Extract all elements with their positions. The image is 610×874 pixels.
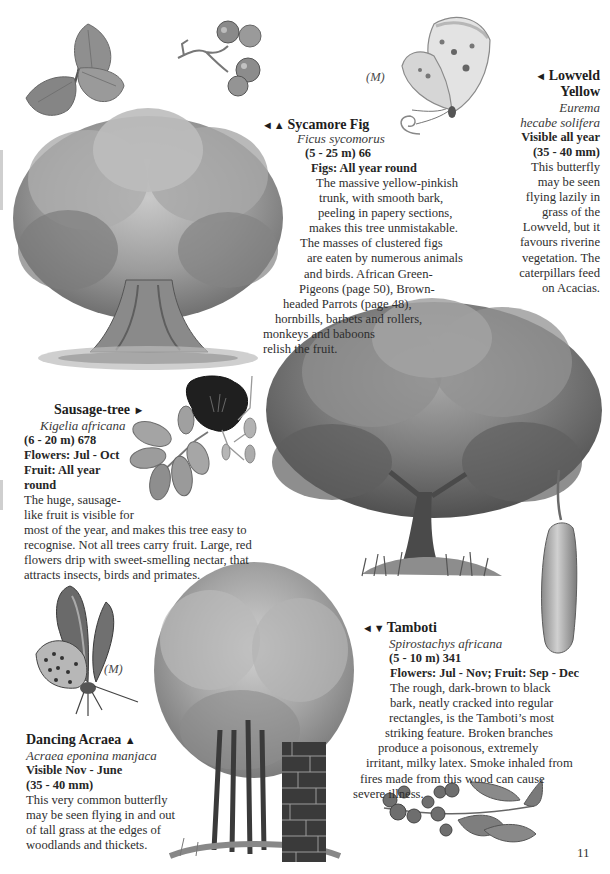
description-line: may be seen (480, 175, 600, 190)
flowering-fruiting-season: Flowers: Jul - Nov; Fruit: Sep - Dec (0, 666, 610, 681)
description-line: vegetation. The (480, 251, 600, 266)
distribution-icons: ◄ ▼ (362, 622, 384, 634)
description-line: woodlands and thickets. (26, 838, 226, 853)
description-line: Lowveld, but it (480, 220, 600, 235)
description-line: Pigeons (page 50), Brown- (0, 282, 450, 297)
wingspan: (35 - 40 mm) (480, 145, 600, 160)
description-line: Yellow (480, 84, 600, 100)
description-line: peeling in papery sections, (0, 206, 450, 221)
size-and-reference: (5 - 10 m) 341 (0, 651, 610, 666)
description-line: bark, neatly cracked into regular (0, 696, 610, 711)
scientific-name: Eurema (480, 100, 600, 115)
size-and-reference: (5 - 25 m) 66 (305, 146, 371, 161)
description-line: relish the fruit. (0, 342, 450, 357)
description-line: The massive yellow-pinkish (0, 176, 450, 191)
distribution-icons: ◄ ▲ (262, 119, 284, 131)
sausage-tree-text: Sausage-tree ► Kigelia africana (6 - 20 … (24, 402, 284, 584)
description-line: This butterfly (480, 160, 600, 175)
description-line: attracts insects, birds and primates. (24, 568, 284, 583)
description-line: grass of the (480, 205, 600, 220)
description-line: hecabe solifera (480, 115, 600, 130)
sycamore-fig-description: The massive yellow-pinkish trunk, with s… (0, 176, 450, 357)
fruiting-season: Figs: All year round (311, 161, 417, 176)
description-line: headed Parrots (page 48), (0, 297, 450, 312)
description-line: trunk, with smooth bark, (0, 191, 450, 206)
description-line: The rough, dark-brown to black (0, 681, 610, 696)
description-line: flowers drip with sweet-smelling nectar,… (24, 553, 284, 568)
page-edge-mark (0, 480, 3, 510)
species-name: Tamboti (387, 620, 437, 635)
lowveld-yellow-butterfly-illustration (392, 12, 492, 142)
page-number: 11 (577, 845, 590, 861)
species-name: Sycamore Fig (288, 117, 370, 132)
lowveld-yellow-text: ◄ Lowveld Yellow Eurema hecabe solifera … (480, 68, 600, 296)
flowering-season: Flowers: Jul - Oct (24, 448, 284, 463)
scientific-name: Acraea eponina manjaca (26, 748, 226, 763)
description-line: recognise. Not all trees carry fruit. La… (24, 538, 284, 553)
distribution-icon: ▲ (125, 734, 135, 746)
distribution-icon: ► (133, 404, 143, 416)
description-line: round (24, 478, 284, 493)
species-name: Sausage-tree (54, 402, 130, 417)
description-line: caterpillars feed (480, 266, 600, 281)
species-name: Lowveld (549, 68, 600, 83)
description-line: favours riverine (480, 235, 600, 250)
description-line: of tall grass at the edges of (26, 823, 226, 838)
species-name: Dancing Acraea (26, 732, 121, 747)
size-marker-male: (M) (366, 70, 385, 85)
dancing-acraea-text: Dancing Acraea ▲ Acraea eponina manjaca … (26, 732, 226, 853)
wingspan: (35 - 40 mm) (26, 778, 226, 793)
visibility-season: Visible all year (480, 130, 600, 145)
description-line: The huge, sausage- (24, 493, 284, 508)
distribution-icon: ◄ (535, 70, 545, 82)
fig-fruit-cluster-illustration (176, 18, 271, 98)
fruiting-season: Fruit: All year (24, 463, 284, 478)
description-line: and birds. African Green- (0, 267, 450, 282)
scientific-name: Kigelia africana (24, 418, 284, 433)
description-line: most of the year, and makes this tree ea… (24, 523, 284, 538)
visibility-season: Visible Nov - June (26, 763, 226, 778)
description-line: makes this tree unmistakable. (0, 221, 450, 236)
description-line: on Acacias. (480, 281, 600, 296)
description-line: like fruit is visible for (24, 508, 284, 523)
size-and-reference: (6 - 20 m) 678 (24, 433, 284, 448)
description-line: are eaten by numerous animals (0, 251, 450, 266)
scientific-name: Spirostachys africana (0, 636, 610, 651)
description-line: hornbills, barbets and rollers, (0, 312, 450, 327)
description-line: This very common butterfly (26, 793, 226, 808)
description-line: flying lazily in (480, 190, 600, 205)
description-line: The masses of clustered figs (0, 236, 450, 251)
description-line: monkeys and baboons (0, 327, 450, 342)
description-line: rectangles, is the Tamboti’s most (0, 711, 610, 726)
description-line: may be seen flying in and out (26, 808, 226, 823)
scientific-name: Ficus sycomorus (297, 131, 385, 146)
